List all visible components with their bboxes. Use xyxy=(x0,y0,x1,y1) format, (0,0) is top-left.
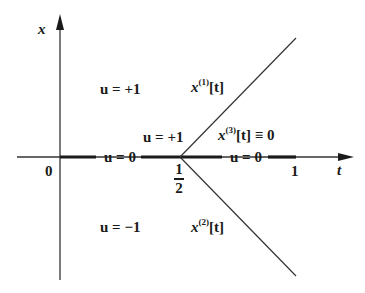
tick-half-denominator: 2 xyxy=(175,181,183,196)
switching-diagram: x t 0 1 1 2 u = +1 u = +1 u = −1 u = 0 u… xyxy=(0,0,365,293)
x3-argument: [t] ≡ 0 xyxy=(236,127,275,143)
x3-base: x xyxy=(218,127,226,143)
trajectory-x1-label: x(1)[t] xyxy=(191,80,224,95)
region-upper-center-label: u = +1 xyxy=(143,130,183,145)
x1-base: x xyxy=(191,79,199,95)
region-lower-left-label: u = −1 xyxy=(100,220,140,235)
x2-base: x xyxy=(191,219,199,235)
axis-right-label: u = 0 xyxy=(230,150,262,165)
tick-half-label: 1 2 xyxy=(174,162,184,196)
x2-superscript: (2) xyxy=(199,217,210,227)
t-axis-arrow-icon xyxy=(338,153,354,161)
x-axis-label: x xyxy=(38,22,46,37)
tick-half-numerator: 1 xyxy=(175,162,183,177)
tick-one-label: 1 xyxy=(291,164,299,179)
x-axis-arrow-icon xyxy=(56,14,64,30)
x3-superscript: (3) xyxy=(226,125,237,135)
region-upper-left-label: u = +1 xyxy=(100,82,140,97)
origin-label: 0 xyxy=(45,164,53,179)
x1-superscript: (1) xyxy=(199,77,210,87)
trajectory-x2-label: x(2)[t] xyxy=(191,220,224,235)
diagram-canvas xyxy=(0,0,365,293)
trajectory-x3-label: x(3)[t] ≡ 0 xyxy=(218,128,275,143)
x1-argument: [t] xyxy=(209,79,224,95)
trajectory-x2-line xyxy=(180,157,296,276)
axis-left-label: u = 0 xyxy=(104,150,136,165)
t-axis-label: t xyxy=(337,163,341,178)
x2-argument: [t] xyxy=(209,219,224,235)
